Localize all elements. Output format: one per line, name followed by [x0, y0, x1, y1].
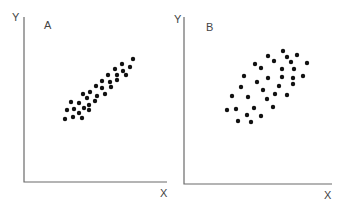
data-point	[71, 115, 75, 119]
x-axis-label-a: X	[160, 187, 168, 199]
data-points-a	[63, 57, 135, 121]
data-point	[246, 95, 250, 99]
data-point	[266, 76, 270, 80]
data-point	[280, 75, 284, 79]
data-point	[100, 79, 104, 83]
data-points-b	[225, 49, 309, 124]
panel-label-b: B	[206, 21, 213, 33]
data-point	[115, 73, 119, 77]
data-point	[236, 119, 240, 123]
scatter-panel-a: Y X A	[12, 11, 168, 199]
data-point	[100, 86, 104, 90]
data-point	[85, 96, 89, 100]
data-point	[277, 84, 281, 88]
data-point	[131, 57, 135, 61]
data-point	[281, 49, 285, 53]
data-point	[265, 97, 269, 101]
scatter-panel-b: Y X B	[174, 13, 332, 201]
data-point	[291, 76, 295, 80]
data-point	[93, 99, 97, 103]
data-point	[305, 61, 309, 65]
data-point	[72, 107, 76, 111]
data-point	[234, 107, 238, 111]
data-point	[230, 94, 234, 98]
scatter-figure: Y X A Y X B	[0, 0, 342, 203]
data-point	[77, 111, 81, 115]
data-point	[285, 93, 289, 97]
data-point	[285, 55, 289, 59]
panel-label-a: A	[44, 19, 52, 31]
data-point	[266, 54, 270, 58]
y-axis-label-b: Y	[174, 13, 182, 25]
data-point	[77, 101, 81, 105]
data-point	[115, 78, 119, 82]
data-point	[245, 113, 249, 117]
data-point	[255, 80, 259, 84]
data-point	[69, 100, 73, 104]
data-point	[120, 62, 124, 66]
data-point	[261, 88, 265, 92]
data-point	[63, 117, 67, 121]
data-point	[295, 53, 299, 57]
x-axis-label-b: X	[324, 189, 332, 201]
data-point	[108, 80, 112, 84]
y-axis-label-a: Y	[12, 11, 20, 23]
data-point	[259, 66, 263, 70]
data-point	[103, 92, 107, 96]
data-point	[87, 103, 91, 107]
data-point	[128, 65, 132, 69]
data-point	[82, 106, 86, 110]
data-point	[124, 73, 128, 77]
axes-b	[184, 17, 332, 184]
data-point	[81, 92, 85, 96]
data-point	[106, 73, 110, 77]
data-point	[87, 108, 91, 112]
data-point	[113, 67, 117, 71]
data-point	[252, 106, 256, 110]
data-point	[80, 116, 84, 120]
data-point	[225, 108, 229, 112]
data-point	[271, 105, 275, 109]
data-point	[280, 67, 284, 71]
data-point	[272, 59, 276, 63]
data-point	[249, 120, 253, 124]
data-point	[292, 67, 296, 71]
data-point	[109, 85, 113, 89]
data-point	[65, 108, 69, 112]
data-point	[291, 82, 295, 86]
data-point	[121, 69, 125, 73]
data-point	[253, 62, 257, 66]
data-point	[259, 114, 263, 118]
data-point	[289, 60, 293, 64]
data-point	[239, 85, 243, 89]
data-point	[94, 84, 98, 88]
data-point	[242, 74, 246, 78]
data-point	[273, 92, 277, 96]
data-point	[301, 74, 305, 78]
data-point	[88, 90, 92, 94]
data-point	[95, 94, 99, 98]
